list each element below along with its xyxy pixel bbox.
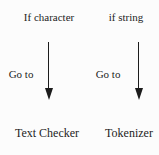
arrow-shaft [48, 42, 49, 89]
goto-label-right: Go to [91, 67, 125, 81]
goto-label-left: Go to [4, 67, 38, 81]
arrow-shaft [138, 42, 139, 89]
target-label-text-checker: Text Checker [12, 126, 82, 141]
down-arrow-icon [44, 42, 53, 100]
condition-label-string: if string [100, 10, 152, 24]
arrow-head [135, 88, 143, 100]
arrow-head [45, 88, 53, 100]
down-arrow-icon [134, 42, 143, 100]
flow-diagram: If character Go to Text Checker if strin… [0, 0, 159, 155]
condition-label-character: If character [18, 10, 80, 24]
target-label-tokenizer: Tokenizer [99, 126, 159, 141]
